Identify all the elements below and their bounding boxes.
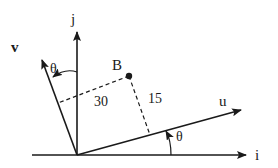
- u-axis-label: u: [219, 93, 227, 109]
- rotated-axes-diagram: j i u v B 15 30 θ θ: [0, 0, 278, 168]
- j-axis-label: j: [70, 11, 75, 27]
- point-b-marker: [126, 73, 132, 79]
- v-axis: [42, 60, 77, 155]
- u-axis: [77, 110, 241, 155]
- i-axis-label: i: [255, 147, 259, 163]
- distance-15-label: 15: [148, 91, 162, 106]
- point-b-label: B: [112, 57, 122, 73]
- distance-30-label: 30: [94, 94, 108, 109]
- v-axis-label: v: [11, 39, 19, 55]
- theta-arc-bottom: [166, 131, 171, 155]
- projection-to-u-axis: [129, 76, 150, 135]
- theta-bottom-label: θ: [176, 129, 183, 144]
- theta-top-label: θ: [50, 61, 57, 76]
